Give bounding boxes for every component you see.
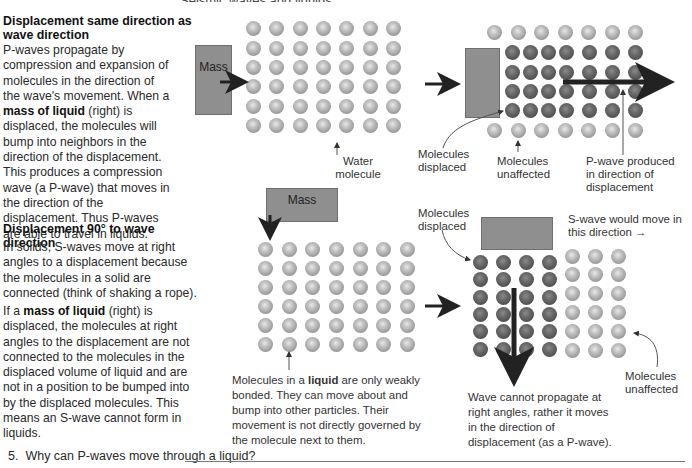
- answer-input-line[interactable]: [185, 461, 685, 462]
- question-5: 5. Why can P-waves move through a liquid…: [8, 449, 255, 464]
- question-number: 5.: [8, 449, 18, 463]
- arrows-overlay: [0, 0, 692, 468]
